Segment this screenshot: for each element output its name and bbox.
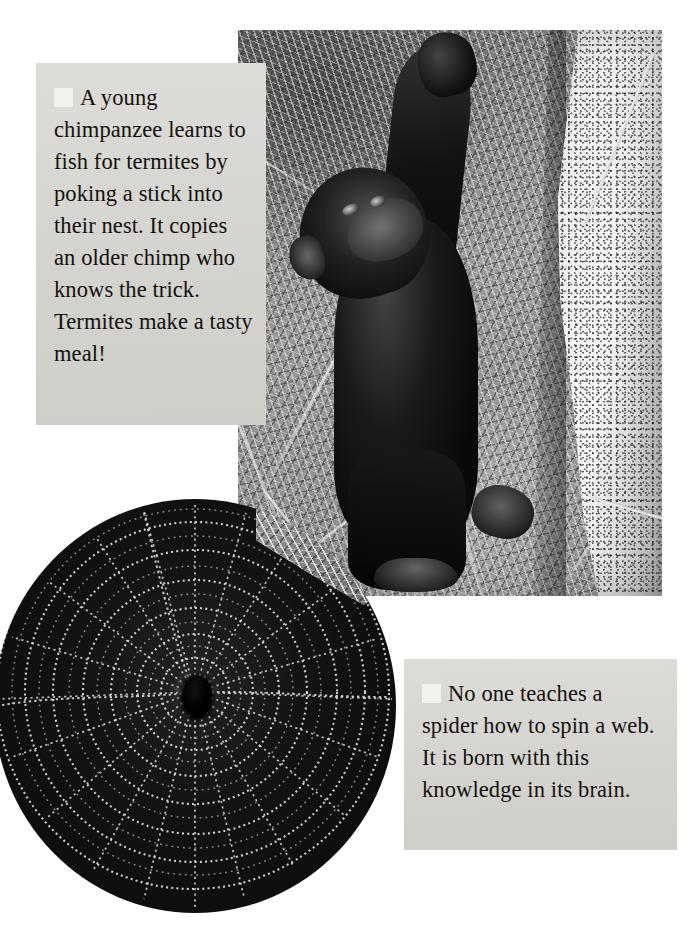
caption-body: A young chimpanzee learns to fish for te… — [36, 63, 266, 370]
spider-caption-text: No one teaches a spider how to spin a we… — [422, 681, 654, 802]
chimpanzee-caption-text: A young chimpanzee learns to fish for te… — [54, 85, 253, 366]
book-page: A young chimpanzee learns to fish for te… — [0, 0, 700, 931]
white-square-bullet-icon — [422, 684, 441, 703]
spider — [182, 676, 212, 718]
spider-web-photo — [0, 499, 396, 913]
caption-body: No one teaches a spider how to spin a we… — [404, 659, 677, 806]
chimp-hand-lower — [467, 479, 540, 544]
spider-caption-panel: No one teaches a spider how to spin a we… — [404, 659, 677, 850]
chimpanzee-caption-panel: A young chimpanzee learns to fish for te… — [36, 63, 266, 425]
white-square-bullet-icon — [54, 88, 73, 107]
